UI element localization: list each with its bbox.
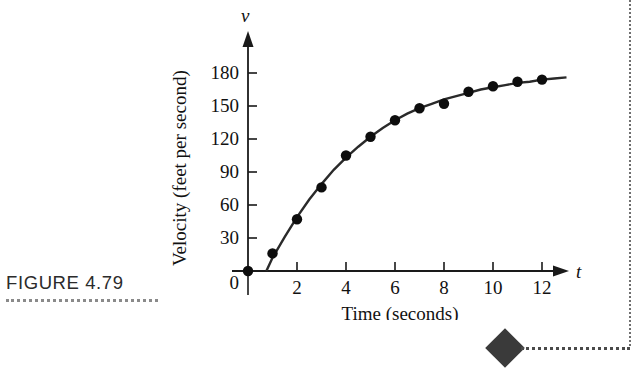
x-tick-labels: 2 4 6 8 10 12 bbox=[292, 277, 551, 298]
data-points-group bbox=[243, 74, 547, 276]
y-tick-label-150: 150 bbox=[211, 95, 240, 116]
y-tick-label-120: 120 bbox=[211, 128, 240, 149]
data-point bbox=[316, 182, 326, 192]
diamond-marker-icon bbox=[485, 328, 525, 368]
data-point bbox=[243, 266, 253, 276]
data-point bbox=[267, 248, 277, 258]
x-tick-label-12: 12 bbox=[533, 277, 552, 298]
data-point bbox=[365, 132, 375, 142]
data-point bbox=[512, 77, 522, 87]
x-tick-label-4: 4 bbox=[341, 277, 351, 298]
x-axis-arrowhead bbox=[553, 266, 569, 277]
y-axis-origin-label: 0 bbox=[230, 272, 240, 293]
data-point bbox=[414, 103, 424, 113]
y-tick-labels: 180 150 120 90 60 30 0 bbox=[211, 62, 240, 293]
footer-dotted-rule bbox=[521, 347, 630, 350]
data-point bbox=[488, 81, 498, 91]
velocity-time-plot: Velocity (feet per second) 180 150 120 9… bbox=[168, 0, 588, 320]
x-tick-label-10: 10 bbox=[484, 277, 503, 298]
x-axis-title: Time (seconds) bbox=[342, 303, 459, 320]
y-tick-label-90: 90 bbox=[220, 161, 239, 182]
data-point bbox=[390, 115, 400, 125]
y-tick-label-60: 60 bbox=[220, 194, 239, 215]
data-point bbox=[463, 87, 473, 97]
data-point bbox=[292, 214, 302, 224]
y-tick-marks bbox=[248, 73, 257, 238]
figure-caption-label: FIGURE 4.79 bbox=[6, 272, 176, 294]
page-right-dotted-rule bbox=[629, 0, 631, 346]
y-axis-variable-label: v bbox=[241, 5, 250, 26]
data-point bbox=[537, 74, 547, 84]
y-axis-title: Velocity (feet per second) bbox=[169, 70, 191, 266]
x-tick-label-6: 6 bbox=[390, 277, 400, 298]
data-point bbox=[439, 99, 449, 109]
data-point bbox=[341, 150, 351, 160]
x-tick-label-2: 2 bbox=[292, 277, 302, 298]
figure-caption-block: FIGURE 4.79 bbox=[6, 272, 176, 302]
figure-caption-dotted-rule bbox=[6, 299, 158, 302]
x-axis-variable-label: t bbox=[576, 261, 582, 282]
figure-chart: Velocity (feet per second) 180 150 120 9… bbox=[168, 0, 588, 320]
y-tick-label-30: 30 bbox=[220, 227, 239, 248]
x-tick-label-8: 8 bbox=[439, 277, 449, 298]
y-tick-label-180: 180 bbox=[211, 62, 240, 83]
y-axis-arrowhead bbox=[243, 31, 254, 47]
